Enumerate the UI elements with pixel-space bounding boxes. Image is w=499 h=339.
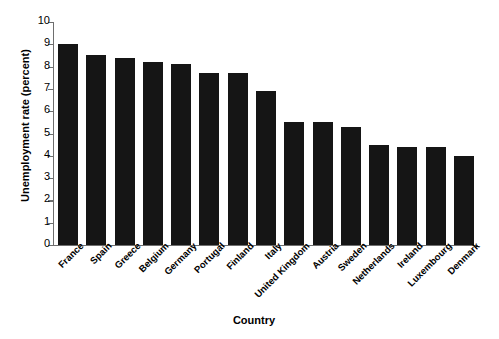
bar xyxy=(171,64,191,245)
bar xyxy=(284,122,304,245)
chart-figure: Unemployment rate (percent) 012345678910… xyxy=(0,0,499,339)
bar xyxy=(199,73,219,245)
bar xyxy=(115,58,135,245)
y-tick-label: 6 xyxy=(44,103,50,115)
plot-area: 012345678910 xyxy=(54,22,478,245)
bar xyxy=(256,91,276,245)
y-tick-label: 3 xyxy=(44,170,50,182)
bar xyxy=(228,73,248,245)
y-tick-label: 10 xyxy=(38,14,50,26)
y-tick-label: 2 xyxy=(44,192,50,204)
bar xyxy=(86,55,106,245)
y-tick-label: 0 xyxy=(44,237,50,249)
y-axis-title: Unemployment rate (percent) xyxy=(16,3,34,248)
bar xyxy=(58,44,78,245)
bar xyxy=(143,62,163,245)
y-tick-label: 4 xyxy=(44,148,50,160)
y-tick-label: 5 xyxy=(44,126,50,138)
y-tick-label: 1 xyxy=(44,215,50,227)
y-tick-label: 7 xyxy=(44,81,50,93)
y-tick-label: 9 xyxy=(44,36,50,48)
y-tick-label: 8 xyxy=(44,59,50,71)
x-axis-title: Country xyxy=(30,314,478,326)
